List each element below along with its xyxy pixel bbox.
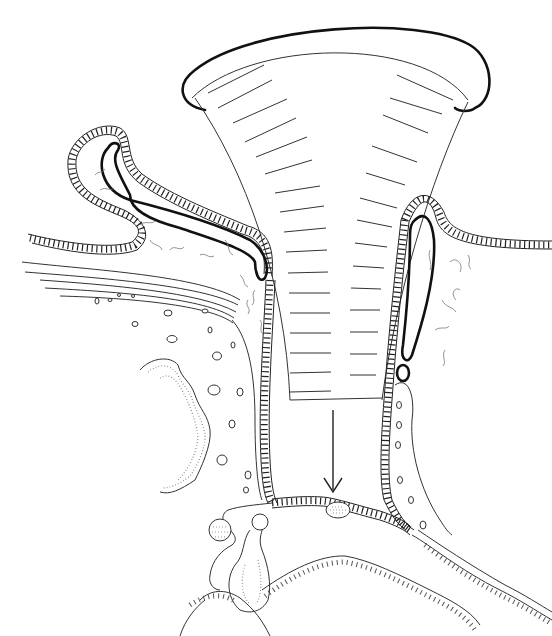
anatomical-illustration	[0, 0, 552, 636]
left-chamber-wall	[260, 280, 277, 503]
ciliated-surface-right	[412, 530, 552, 624]
left-fold	[28, 126, 272, 334]
arrow-down	[324, 410, 342, 492]
right-sac	[381, 195, 552, 535]
gland-structure	[180, 503, 272, 636]
scattered-granules	[95, 294, 251, 494]
funnel-rim	[183, 28, 490, 111]
ciliated-surface-bottom	[262, 556, 480, 630]
stippled-mass	[140, 359, 210, 493]
figure-canvas	[0, 0, 552, 636]
fiber-bundle	[22, 262, 240, 323]
